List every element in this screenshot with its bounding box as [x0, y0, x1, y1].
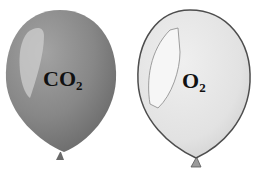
balloons-svg	[0, 0, 256, 172]
balloon-illustration: CO2 O2	[0, 0, 256, 172]
o2-label: O2	[182, 68, 206, 96]
co2-label: CO2	[43, 66, 83, 94]
